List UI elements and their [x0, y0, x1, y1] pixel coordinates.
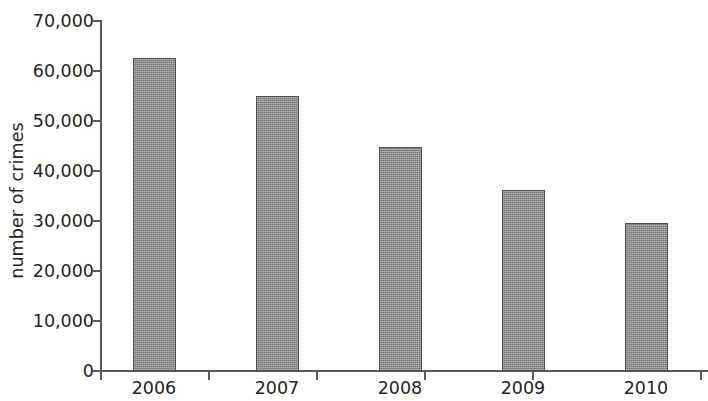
x-tick-label-2008: 2008	[345, 379, 455, 398]
bar-2006	[133, 58, 176, 371]
plot-area	[0, 0, 708, 401]
x-tick-label-2007: 2007	[222, 379, 332, 398]
bar-chart: number of crimes 70,000 60,000 50,000 40…	[0, 0, 708, 401]
bar-2009	[502, 190, 545, 371]
x-tick-label-2010: 2010	[591, 379, 701, 398]
bar-2007	[256, 96, 299, 371]
bar-2010	[625, 223, 668, 371]
x-tick-label-2006: 2006	[99, 379, 209, 398]
x-tick-label-2009: 2009	[468, 379, 578, 398]
bar-2008	[379, 147, 422, 371]
